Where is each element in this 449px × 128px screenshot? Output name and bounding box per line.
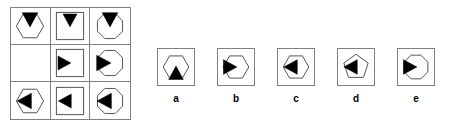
shape-hexagon-triangle-down <box>13 9 47 43</box>
shape-square-triangle-left <box>53 84 87 118</box>
marker-triangle-up <box>169 66 184 79</box>
marker-triangle-right <box>403 60 416 75</box>
answer-option-label-d: d <box>337 93 375 105</box>
matrix-cell <box>51 8 91 45</box>
answer-option-box-a[interactable] <box>157 48 195 86</box>
shape-octagon-triangle-down <box>93 9 127 43</box>
matrix-cell <box>11 82 51 119</box>
shape-hexagon-triangle-left <box>280 51 312 83</box>
answer-option-box-e[interactable] <box>397 48 435 86</box>
matrix-grid <box>10 7 131 120</box>
matrix-cell <box>11 8 51 45</box>
matrix-cell-empty <box>11 45 51 82</box>
shape-square-triangle-right <box>53 46 87 80</box>
answer-option-a[interactable]: a <box>157 48 195 105</box>
shape-octagon-triangle-left <box>93 84 127 118</box>
matrix-cell <box>90 8 130 45</box>
answer-option-box-c[interactable] <box>277 48 315 86</box>
marker-triangle-down <box>102 13 118 27</box>
answer-option-label-e: e <box>397 93 435 105</box>
marker-triangle-down <box>23 13 39 27</box>
marker-triangle-right <box>223 60 236 75</box>
answer-option-label-c: c <box>277 93 315 105</box>
answer-options-row: abcde <box>157 48 439 120</box>
marker-triangle-left <box>58 94 71 108</box>
answer-option-label-a: a <box>157 93 195 105</box>
answer-option-box-b[interactable] <box>217 48 255 86</box>
marker-triangle-right <box>97 55 111 71</box>
matrix-cell <box>51 82 91 119</box>
marker-triangle-down <box>63 14 77 27</box>
answer-option-c[interactable]: c <box>277 48 315 105</box>
shape-hexagon-triangle-left <box>13 84 47 118</box>
answer-option-box-d[interactable] <box>337 48 375 86</box>
shape-hexagon-triangle-right <box>220 51 252 83</box>
answer-option-e[interactable]: e <box>397 48 435 105</box>
answer-option-d[interactable]: d <box>337 48 375 105</box>
shape-pentagon-triangle-left <box>340 51 372 83</box>
matrix-cell <box>90 82 130 119</box>
marker-triangle-right <box>58 56 71 70</box>
shape-square-triangle-down <box>53 9 87 43</box>
answer-option-label-b: b <box>217 93 255 105</box>
matrix-cell <box>90 45 130 82</box>
puzzle-canvas: abcde <box>0 0 449 128</box>
marker-triangle-left <box>97 93 111 109</box>
shape-hexagon-triangle-up <box>160 51 192 83</box>
shape-octagon-triangle-right <box>93 46 127 80</box>
shape-octagon-triangle-right <box>400 51 432 83</box>
matrix-cell <box>51 45 91 82</box>
answer-option-b[interactable]: b <box>217 48 255 105</box>
